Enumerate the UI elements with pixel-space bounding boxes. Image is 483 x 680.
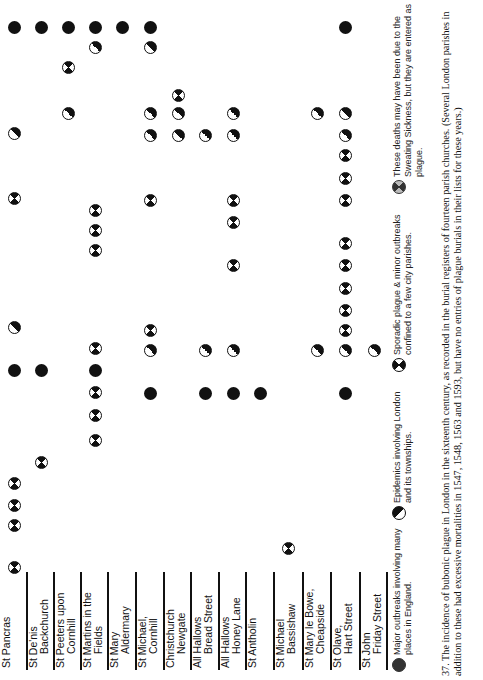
legend-item-sweating: These deaths may have been due to the Sw…: [392, 2, 425, 194]
rotated-footer: Major outbreaks involving many places in…: [0, 0, 483, 680]
legend-item-sporadic: Sporadic plague & minor outbreaks confin…: [392, 195, 414, 372]
sweating-cross-icon: [392, 180, 406, 194]
half-circle-icon: [392, 506, 406, 520]
filled-circle-icon: [392, 658, 406, 672]
legend-item-epidemic: Epidemics involving London and its towns…: [392, 378, 414, 520]
figure-caption: 37. The incidence of bubonic plague in L…: [440, 8, 464, 676]
cross-circle-icon: [392, 358, 406, 372]
legend-item-major: Major outbreaks involving many places in…: [392, 525, 414, 672]
legend: Major outbreaks involving many places in…: [392, 12, 432, 672]
